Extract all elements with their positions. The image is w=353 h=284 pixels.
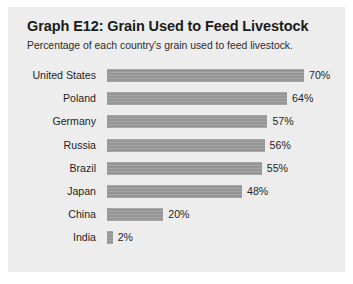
bar-row: Brazil55% bbox=[8, 157, 345, 180]
bar-row: United States70% bbox=[8, 64, 345, 87]
chart-subtitle: Percentage of each country's grain used … bbox=[27, 40, 293, 51]
bar-category-label: India bbox=[8, 226, 96, 249]
bar-value-label: 55% bbox=[267, 157, 288, 180]
bar-fill bbox=[107, 69, 304, 82]
bar-track: 64% bbox=[107, 87, 345, 110]
bar-row: India2% bbox=[8, 226, 345, 249]
bar-fill bbox=[107, 208, 163, 221]
bar-track: 55% bbox=[107, 157, 345, 180]
chart-card: Graph E12: Grain Used to Feed Livestock … bbox=[8, 7, 345, 272]
bar-category-label: Poland bbox=[8, 87, 96, 110]
bar-row: Poland64% bbox=[8, 87, 345, 110]
bar-fill bbox=[107, 162, 262, 175]
bar-value-label: 64% bbox=[292, 87, 313, 110]
bar-row: Germany57% bbox=[8, 110, 345, 133]
bar-value-label: 56% bbox=[270, 134, 291, 157]
bar-category-label: Russia bbox=[8, 134, 96, 157]
bar-row: Japan48% bbox=[8, 180, 345, 203]
bar-fill bbox=[107, 92, 287, 105]
bar-value-label: 2% bbox=[118, 226, 133, 249]
bar-value-label: 20% bbox=[168, 203, 189, 226]
bar-fill bbox=[107, 115, 267, 128]
bar-track: 2% bbox=[107, 226, 345, 249]
bar-fill bbox=[107, 231, 113, 244]
bar-track: 48% bbox=[107, 180, 345, 203]
bar-category-label: Brazil bbox=[8, 157, 96, 180]
bar-category-label: China bbox=[8, 203, 96, 226]
bar-track: 57% bbox=[107, 110, 345, 133]
bar-value-label: 48% bbox=[247, 180, 268, 203]
bar-track: 20% bbox=[107, 203, 345, 226]
bar-category-label: Germany bbox=[8, 110, 96, 133]
bar-row: Russia56% bbox=[8, 134, 345, 157]
bar-value-label: 57% bbox=[272, 110, 293, 133]
bar-fill bbox=[107, 185, 242, 198]
bar-fill bbox=[107, 139, 265, 152]
bar-value-label: 70% bbox=[309, 64, 330, 87]
bar-chart-plot-area: United States70%Poland64%Germany57%Russi… bbox=[8, 64, 345, 264]
bar-category-label: United States bbox=[8, 64, 96, 87]
bar-category-label: Japan bbox=[8, 180, 96, 203]
chart-title: Graph E12: Grain Used to Feed Livestock bbox=[27, 18, 308, 34]
bar-track: 70% bbox=[107, 64, 345, 87]
bar-track: 56% bbox=[107, 134, 345, 157]
bar-row: China20% bbox=[8, 203, 345, 226]
